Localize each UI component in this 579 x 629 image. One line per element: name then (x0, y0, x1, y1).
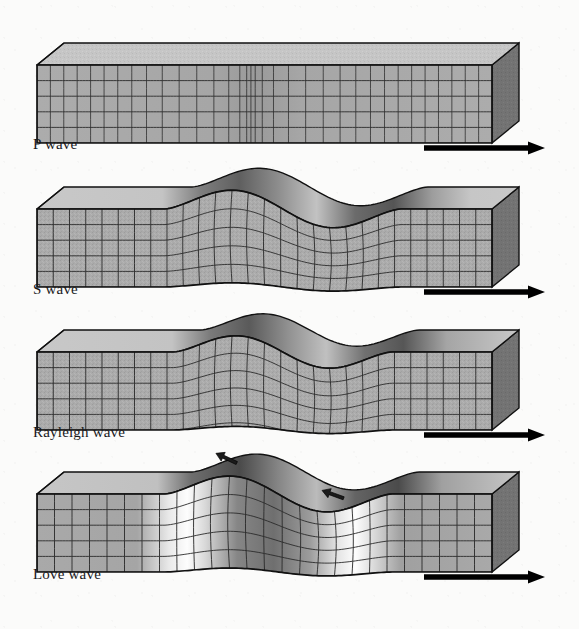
wave-label-rayleigh-wave: Rayleigh wave (33, 424, 125, 441)
panel-s-wave (37, 168, 519, 291)
panel-love-wave (37, 449, 519, 576)
panel-rayleigh-wave (37, 314, 519, 437)
panel-p-wave (37, 43, 519, 143)
wave-label-s-wave: S wave (33, 281, 78, 298)
seismic-wave-diagram (0, 0, 579, 629)
wave-label-p-wave: P wave (33, 136, 77, 153)
wave-label-love-wave: Love wave (33, 566, 101, 583)
block-top-face (37, 43, 519, 65)
block-front-face (37, 65, 492, 143)
